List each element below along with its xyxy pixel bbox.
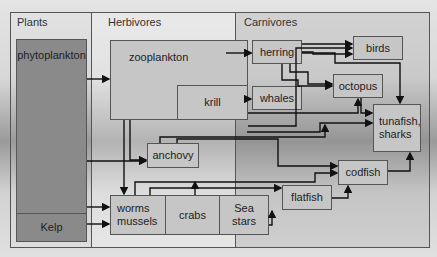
food-web-diagram: Plants Herbivores Carnivores phytoplankt… [0,0,437,257]
arrows-layer [0,0,437,257]
